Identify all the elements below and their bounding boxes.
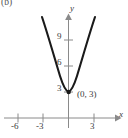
y-tick-label-3: 3 bbox=[57, 84, 62, 93]
graph-canvas bbox=[0, 0, 128, 138]
x-tick-label-neg6: -6 bbox=[11, 122, 19, 131]
x-axis-label: x bbox=[119, 110, 123, 119]
panel-label: (b) bbox=[1, 0, 12, 7]
vertex-point-marker bbox=[67, 90, 71, 94]
y-axis-label: y bbox=[70, 4, 74, 13]
y-tick-label-9: 9 bbox=[57, 32, 62, 41]
y-axis-arrowhead bbox=[65, 14, 72, 21]
y-tick-label-6: 6 bbox=[57, 58, 62, 67]
x-tick-label-pos3: 3 bbox=[90, 122, 95, 131]
parabola-figure: (b) y x 9 6 3 -6 -3 3 (0, 3) bbox=[0, 0, 128, 138]
x-tick-label-neg3: -3 bbox=[36, 122, 44, 131]
vertex-point-label: (0, 3) bbox=[77, 90, 97, 99]
